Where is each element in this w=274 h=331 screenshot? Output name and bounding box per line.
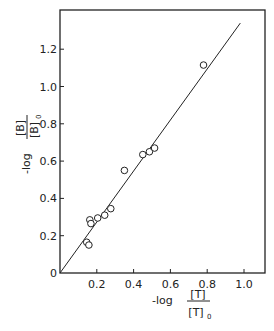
data-points [83, 62, 206, 249]
data-point [151, 145, 158, 152]
y-label-numerator: [B] [14, 120, 27, 136]
data-point [88, 220, 95, 227]
y-tick-label: 0 [50, 267, 57, 280]
data-point [140, 151, 147, 158]
y-label-subscript: 0 [35, 115, 43, 119]
data-point [121, 167, 128, 174]
y-tick-label: 1.2 [40, 43, 58, 56]
plot-frame [60, 10, 265, 273]
x-label-numerator: [T] [190, 288, 205, 301]
x-axis-label: -log [T] [T] 0 [152, 288, 211, 321]
scatter-chart: 0.20.40.60.81.000.20.40.60.81.01.2 -log … [0, 0, 274, 331]
axis-ticks: 0.20.40.60.81.000.20.40.60.81.01.2 [40, 43, 253, 291]
y-tick-label: 1.0 [40, 81, 58, 94]
data-point [86, 242, 93, 249]
x-label-subscript: 0 [207, 313, 211, 321]
fit-line [60, 23, 240, 273]
x-tick-label: 1.0 [235, 278, 253, 291]
plot-border [60, 10, 265, 273]
x-label-prefix: -log [152, 294, 173, 307]
x-tick-label: 0.4 [125, 278, 143, 291]
data-point [101, 212, 108, 219]
y-tick-label: 0.4 [40, 192, 58, 205]
y-tick-label: 0.6 [40, 155, 58, 168]
x-label-denominator: [T] [188, 306, 203, 319]
y-label-denominator: [B] [28, 122, 41, 138]
y-tick-label: 0.2 [40, 230, 58, 243]
x-tick-label: 0.2 [88, 278, 106, 291]
x-tick-label: 0.6 [162, 278, 180, 291]
y-label-prefix: -log [20, 153, 33, 174]
data-point [94, 215, 101, 222]
data-point [107, 205, 114, 212]
data-point [200, 62, 207, 69]
